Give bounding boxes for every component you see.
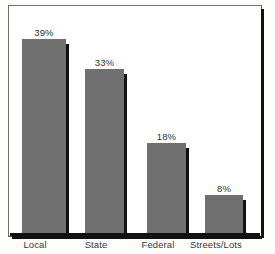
bar-body-federal <box>147 143 186 235</box>
bar-local[interactable]: 39% <box>22 39 66 235</box>
bar-shadow-federal <box>186 148 189 235</box>
category-label-local: Local <box>9 239 61 250</box>
bar-state[interactable]: 33% <box>85 69 124 235</box>
bar-shadow-state <box>124 74 127 235</box>
bar-shadow-local <box>66 44 69 235</box>
bar-body-local <box>22 39 66 235</box>
x-axis-category-labels: Local State Federal Streets/Lots <box>0 239 275 254</box>
bar-value-state: 33% <box>95 57 114 68</box>
plot-area: 39% 33% 18% 8% <box>9 6 261 235</box>
bar-streets-lots[interactable]: 8% <box>205 195 243 235</box>
bar-body-streets-lots <box>205 195 243 235</box>
bar-value-local: 39% <box>34 27 53 38</box>
bar-federal[interactable]: 18% <box>147 143 186 235</box>
bar-value-streets-lots: 8% <box>217 183 231 194</box>
bar-value-federal: 18% <box>157 131 176 142</box>
bar-chart-screenshot: 39% 33% 18% 8% Local State Federal Stree… <box>0 0 275 254</box>
bar-shadow-streets-lots <box>243 200 246 235</box>
bar-body-state <box>85 69 124 235</box>
category-label-state: State <box>71 239 121 250</box>
category-label-streets-lots: Streets/Lots <box>182 239 250 250</box>
category-label-federal: Federal <box>129 239 187 250</box>
x-axis-baseline <box>10 233 260 236</box>
frame-shadow-right <box>261 9 264 238</box>
